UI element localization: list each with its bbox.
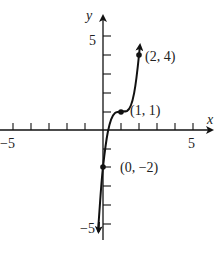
x-min-label: −5 [0,136,15,151]
y-axis [103,16,111,240]
point-label-1-1: (1, 1) [130,103,161,119]
point-label-0-neg2: (0, −2) [120,160,159,176]
x-max-label: 5 [188,136,195,151]
point-0-neg2 [100,164,106,170]
y-min-label: −5 [80,221,95,236]
x-axis [0,123,212,130]
x-axis-label: x [206,112,214,127]
point-2-4 [136,52,142,58]
point-label-2-4: (2, 4) [145,49,176,65]
y-max-label: 5 [89,33,96,48]
graph: y x 5 −5 −5 5 (2, 4) (1, 1) (0, −2) [0,0,218,257]
curve [98,45,140,231]
point-1-1 [118,109,124,115]
y-axis-label: y [84,8,93,23]
